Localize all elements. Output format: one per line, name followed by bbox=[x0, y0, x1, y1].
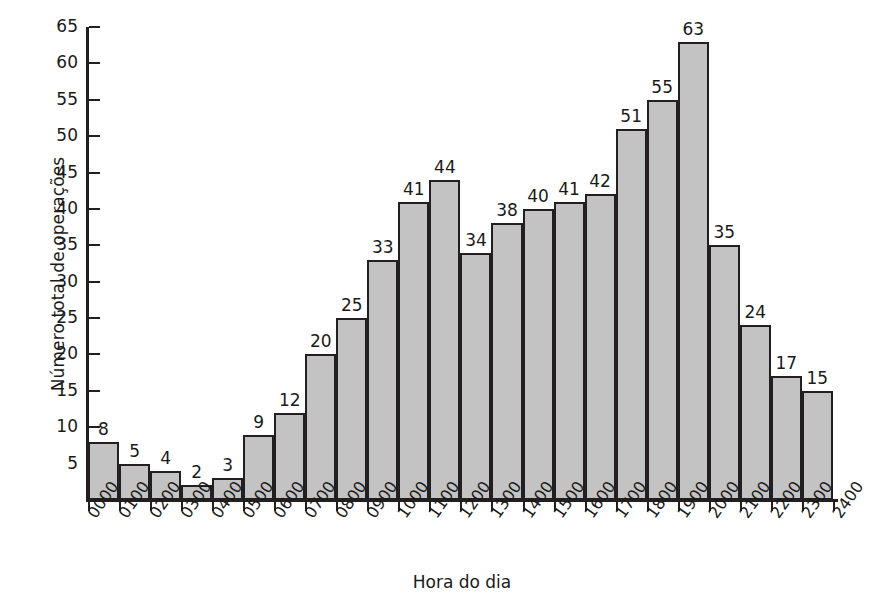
bar bbox=[336, 318, 367, 500]
bar bbox=[740, 325, 771, 500]
bar bbox=[429, 180, 460, 500]
bar bbox=[709, 245, 740, 500]
bar bbox=[523, 209, 554, 500]
bar-value-label: 8 bbox=[82, 421, 125, 438]
bar bbox=[554, 202, 585, 500]
y-tick-label: 45 bbox=[26, 164, 78, 181]
bar bbox=[305, 354, 336, 500]
bar-value-label: 44 bbox=[423, 159, 466, 176]
bar-chart: Número total de operações 51015202530354… bbox=[0, 0, 869, 613]
y-tick-label: 15 bbox=[26, 382, 78, 399]
bar bbox=[585, 194, 616, 500]
bar-value-label: 35 bbox=[703, 224, 746, 241]
bar bbox=[616, 129, 647, 500]
y-tick-label: 20 bbox=[26, 345, 78, 362]
y-tick-label: 10 bbox=[26, 418, 78, 435]
bar bbox=[398, 202, 429, 500]
bar bbox=[491, 223, 522, 500]
y-tick-label: 25 bbox=[26, 309, 78, 326]
y-tick-label: 65 bbox=[26, 18, 78, 35]
y-tick-label: 40 bbox=[26, 200, 78, 217]
bar-value-label: 15 bbox=[796, 370, 839, 387]
bar bbox=[367, 260, 398, 500]
x-axis-title: Hora do dia bbox=[88, 572, 836, 592]
y-tick-label: 50 bbox=[26, 127, 78, 144]
y-tick-label: 35 bbox=[26, 236, 78, 253]
y-tick-label: 5 bbox=[26, 455, 78, 472]
plot-area: 8542391220253341443438404142515563352417… bbox=[88, 27, 836, 500]
bar bbox=[460, 253, 491, 500]
y-tick-label: 60 bbox=[26, 54, 78, 71]
bar-value-label: 63 bbox=[672, 21, 715, 38]
y-tick-label: 55 bbox=[26, 91, 78, 108]
bar-value-label: 24 bbox=[734, 304, 777, 321]
bar bbox=[647, 100, 678, 500]
y-tick-label: 30 bbox=[26, 273, 78, 290]
bar bbox=[678, 42, 709, 500]
